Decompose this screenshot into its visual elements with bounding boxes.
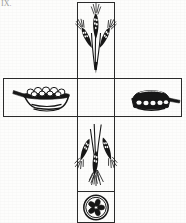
wheat-sheaf-upright-icon <box>74 3 118 74</box>
skillet-with-food-icon <box>13 87 70 111</box>
wheat-sheaf-inverted-icon <box>73 124 118 186</box>
rosette-medallion-icon <box>84 195 108 219</box>
cross-diagram <box>0 0 186 223</box>
figure-root: IX. <box>0 0 186 223</box>
covered-dish-icon <box>132 91 180 110</box>
